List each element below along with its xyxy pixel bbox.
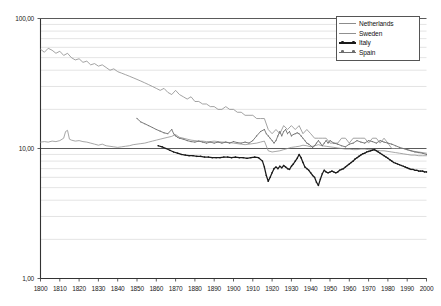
series-marker [376, 150, 378, 152]
y-axis-tick-label: 10,00 [0, 145, 34, 152]
series-marker [360, 154, 362, 156]
series-marker [206, 143, 207, 144]
series-marker [136, 118, 137, 119]
series-marker [426, 154, 427, 155]
series-marker [250, 157, 252, 159]
series-line-spain [137, 119, 427, 155]
series-marker [227, 156, 229, 158]
series-marker [318, 185, 320, 187]
series-marker [391, 144, 392, 145]
series-marker [399, 164, 401, 166]
series-marker [412, 169, 414, 171]
series-marker [268, 135, 269, 136]
x-axis-tick-label: 2000 [415, 285, 439, 292]
series-marker [281, 135, 282, 136]
series-marker [395, 162, 397, 164]
series-marker [377, 151, 379, 153]
series-marker [404, 166, 406, 168]
legend-item-italy[interactable]: Italy [339, 38, 416, 48]
series-marker [358, 156, 360, 158]
series-marker [422, 153, 423, 154]
legend-item-sweden[interactable]: Sweden [339, 29, 416, 39]
series-marker [418, 152, 419, 153]
legend-item-label: Sweden [359, 29, 382, 39]
series-marker [326, 140, 327, 141]
legend-item-netherlands[interactable]: Netherlands [339, 19, 416, 29]
series-marker [368, 140, 369, 141]
series-marker [254, 156, 256, 158]
series-marker [337, 144, 338, 145]
series-marker [374, 149, 376, 151]
series-marker [364, 152, 366, 154]
series-marker [380, 140, 381, 141]
series-marker [316, 143, 317, 144]
series-marker [372, 149, 374, 151]
series-marker [354, 158, 356, 160]
series-marker [156, 129, 157, 130]
series-marker [198, 141, 199, 142]
series-marker [221, 143, 222, 144]
series-marker [273, 168, 275, 170]
legend-item-label: Italy [359, 38, 371, 48]
series-marker [241, 143, 242, 144]
series-marker [345, 146, 346, 147]
series-marker [293, 163, 295, 165]
series-marker [163, 132, 164, 133]
series-marker [387, 158, 389, 160]
series-marker [239, 157, 241, 159]
series-marker [422, 170, 424, 172]
legend-item-label: Netherlands [359, 19, 393, 29]
series-marker [260, 131, 261, 132]
series-marker [152, 127, 153, 128]
y-axis-tick-label: 100,00 [0, 15, 34, 22]
legend-swatch-icon [339, 29, 356, 37]
series-marker [364, 143, 365, 144]
series-marker [356, 157, 358, 159]
series-marker [339, 169, 341, 171]
series-marker [225, 142, 226, 143]
series-marker [324, 143, 325, 144]
series-marker [248, 143, 249, 144]
legend-swatch-icon [339, 20, 356, 28]
series-marker [320, 178, 322, 180]
series-marker [333, 143, 334, 144]
series-marker [235, 156, 237, 158]
series-marker [148, 125, 149, 126]
series-line-netherlands [41, 48, 427, 153]
series-marker [312, 175, 314, 177]
series-marker [188, 155, 190, 157]
series-marker [279, 131, 280, 132]
series-marker [204, 156, 206, 158]
series-marker [271, 172, 273, 174]
series-marker [316, 181, 318, 183]
series-marker [399, 147, 400, 148]
series-marker [383, 155, 385, 157]
series-line-italy [158, 146, 426, 186]
series-marker [256, 135, 257, 136]
series-marker [416, 169, 418, 171]
series-marker [320, 143, 321, 144]
series-marker [258, 157, 260, 159]
legend-item-spain[interactable]: Spain [339, 48, 416, 58]
series-marker [291, 165, 293, 167]
series-marker [349, 144, 350, 145]
series-marker [341, 169, 343, 171]
series-marker [318, 140, 319, 141]
series-marker [302, 162, 304, 164]
series-marker [270, 138, 271, 139]
series-marker [187, 140, 188, 141]
series-marker [335, 172, 337, 174]
series-marker [314, 177, 316, 179]
series-marker [289, 169, 291, 171]
series-marker [294, 160, 296, 162]
series-marker [304, 166, 306, 168]
legend-swatch-icon [339, 48, 356, 56]
series-marker [362, 153, 364, 155]
legend-item-label: Spain [359, 48, 375, 58]
series-marker [353, 143, 354, 144]
series-marker [407, 149, 408, 150]
series-marker [287, 168, 289, 170]
series-marker [347, 165, 349, 167]
series-marker [208, 156, 210, 158]
series-marker [173, 151, 175, 153]
